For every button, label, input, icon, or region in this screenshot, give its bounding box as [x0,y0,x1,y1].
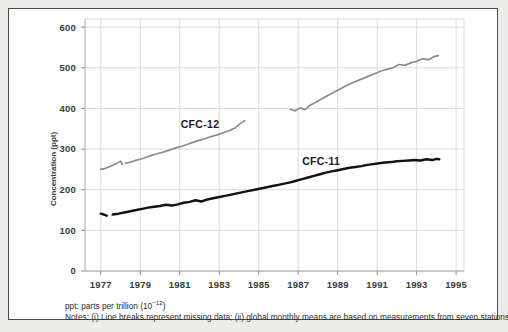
x-axis-tick-labels: 1977197919811983198519871989199119931995 [90,279,468,290]
x-tick-1987: 1987 [287,279,309,290]
y-axis-tick-labels: 0100200300400500600 [60,22,76,277]
y-tick-400: 400 [60,103,76,114]
x-tick-1993: 1993 [406,279,428,290]
figure-frame: 0100200300400500600 19771979198119831985… [8,8,498,320]
y-tick-500: 500 [60,62,76,73]
footnotes-block: ppt: parts per trillion (10−12) Notes: (… [65,297,495,324]
x-tick-1981: 1981 [169,279,191,290]
y-tick-600: 600 [60,22,76,33]
grid-lines [81,19,464,275]
x-tick-1991: 1991 [366,279,388,290]
x-tick-1977: 1977 [90,279,112,290]
series-line-cfc-12-seg2 [290,56,438,111]
series-line-cfc-12-seg0 [101,161,123,169]
footnote-ppt-exponent: −12 [152,299,163,306]
x-tick-1989: 1989 [327,279,349,290]
x-tick-1979: 1979 [129,279,151,290]
y-tick-300: 300 [60,143,76,154]
x-tick-1995: 1995 [445,279,467,290]
footnote-notes: Notes: (i) Line breaks represent missing… [65,312,495,324]
y-tick-100: 100 [60,225,76,236]
series-line-cfc-11-seg0 [101,214,107,216]
series-line-cfc-11-seg1 [113,159,440,215]
series-label-cfc-12: CFC-12 [181,118,220,130]
data-series-lines [101,56,440,216]
series-label-cfc-11: CFC-11 [302,155,340,167]
x-tick-1985: 1985 [248,279,270,290]
footnote-ppt-prefix: ppt: parts per trillion (10 [65,301,152,311]
footnote-ppt-suffix: ) [163,301,166,311]
figure-page: 0100200300400500600 19771979198119831985… [0,0,508,332]
footnote-ppt: ppt: parts per trillion (10−12) [65,297,495,312]
y-tick-0: 0 [71,265,76,276]
y-axis-label: Concentration (ppt) [49,132,58,207]
y-tick-200: 200 [60,184,76,195]
x-tick-1983: 1983 [208,279,230,290]
cfc-concentration-line-chart: 0100200300400500600 19771979198119831985… [9,9,497,319]
chart-figure: 0100200300400500600 19771979198119831985… [9,9,497,319]
series-inline-labels: CFC-12CFC-11 [181,118,340,167]
